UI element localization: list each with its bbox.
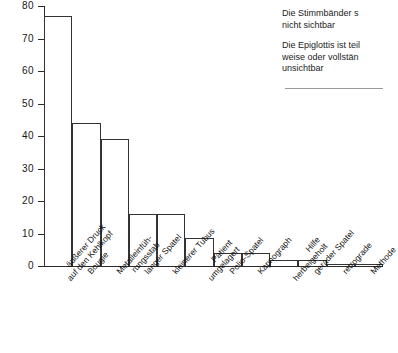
- bar: [101, 139, 129, 266]
- annotation-divider: [285, 88, 383, 89]
- y-axis-tick-label: 50: [0, 99, 34, 109]
- y-axis-tick-label: 60: [0, 66, 34, 76]
- annotation-block: Die Stimmbänder s nicht sichtbar Die Epi…: [282, 8, 383, 75]
- x-axis-labels: äußerer Druckauf den KehlkopfBougieMetal…: [0, 266, 383, 353]
- y-axis-tick-label: 30: [0, 164, 34, 174]
- bar: [44, 16, 72, 266]
- annotation-note-1-line-2: nicht sichtbar: [282, 20, 335, 30]
- annotation-note-2-line-3: unsichtbar: [282, 63, 324, 73]
- y-axis-tick-label: 10: [0, 229, 34, 239]
- y-axis-tick-label: 20: [0, 196, 34, 206]
- annotation-note-2-line-1: Die Epiglottis ist teil: [282, 40, 360, 50]
- annotation-note-1-line-1: Die Stimmbänder s: [282, 8, 359, 18]
- y-axis-tick-label: 70: [0, 34, 34, 44]
- annotation-note-2-line-2: weise oder vollstän: [282, 52, 359, 62]
- y-axis-tick-label: 40: [0, 131, 34, 141]
- annotation-note-2: Die Epiglottis ist teil weise oder volls…: [282, 40, 383, 75]
- y-axis-tick-label: 80: [0, 1, 34, 11]
- annotation-note-1: Die Stimmbänder s nicht sichtbar: [282, 8, 383, 31]
